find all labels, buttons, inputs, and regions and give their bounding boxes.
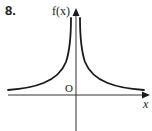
curve-left-branch: [8, 18, 71, 90]
curve-right-branch: [80, 18, 144, 90]
graph-figure: 8. f(x) O x: [0, 0, 152, 131]
origin-label: O: [65, 83, 73, 94]
problem-number: 8.: [5, 4, 16, 17]
graph-canvas: [0, 0, 152, 131]
y-axis-arrow-icon: [73, 8, 80, 16]
y-axis-label: f(x): [52, 5, 70, 17]
x-axis-label: x: [143, 98, 148, 110]
